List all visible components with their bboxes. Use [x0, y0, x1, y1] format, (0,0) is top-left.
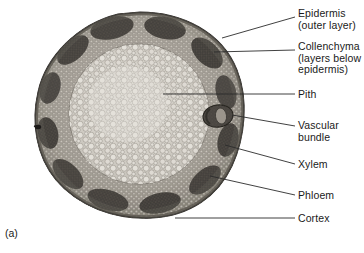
label-pith: Pith [298, 89, 317, 101]
stem-section-body [28, 8, 256, 224]
label-vascular-bundle: Vascular bundle [298, 120, 339, 143]
label-cortex: Cortex [298, 213, 330, 225]
figure-caption-a: (a) [5, 228, 18, 240]
label-xylem: Xylem [298, 159, 328, 171]
label-phloem: Phloem [298, 190, 334, 202]
figure-dicot-stem-cross-section: Epidermis (outer layer) Collenchyma (lay… [0, 0, 364, 253]
label-epidermis: Epidermis (outer layer) [298, 8, 356, 31]
label-collenchyma: Collenchyma (layers below epidermis) [298, 41, 361, 76]
